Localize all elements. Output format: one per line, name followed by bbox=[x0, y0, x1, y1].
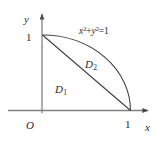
region-d2-base: D bbox=[85, 58, 93, 70]
x-axis-label: x bbox=[145, 122, 150, 133]
chord-line bbox=[43, 35, 131, 111]
region-d2-subscript: 2 bbox=[93, 63, 97, 72]
eq-exponent-2: 2 bbox=[96, 25, 99, 32]
region-d1-subscript: 1 bbox=[63, 88, 67, 97]
x-axis-tick-label-1: 1 bbox=[125, 119, 131, 130]
figure-canvas: y x 1 1 O D1 D2 x2+y2=1 bbox=[0, 0, 163, 147]
region-d1-base: D bbox=[55, 83, 63, 95]
region-label-d2: D2 bbox=[85, 59, 97, 70]
region-label-d1: D1 bbox=[55, 84, 67, 95]
origin-label: O bbox=[26, 120, 34, 131]
curve-equation-label: x2+y2=1 bbox=[79, 27, 109, 37]
y-axis-label: y bbox=[24, 14, 29, 25]
eq-equals-one: =1 bbox=[99, 26, 109, 36]
eq-exponent-1: 2 bbox=[83, 25, 86, 32]
y-axis-tick-label-1: 1 bbox=[26, 32, 32, 43]
